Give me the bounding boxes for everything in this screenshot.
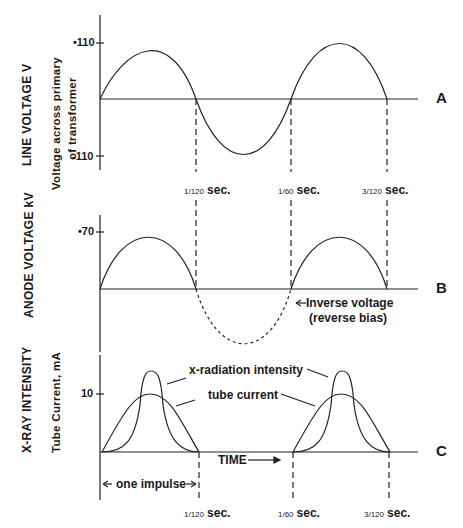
panel-b-axis-title: ANODE VOLTAGE kV — [22, 192, 36, 318]
panel-b-inverse-voltage — [196, 289, 291, 344]
time-mark-1-120: 1/120sec. — [184, 183, 230, 197]
inverse-voltage-label: Inverse voltage — [306, 296, 393, 310]
time-mark-3-120: 3/120sec. — [362, 183, 408, 197]
panel-c-tube-current-1 — [102, 394, 199, 452]
panel-a-label: A — [436, 89, 447, 106]
time-mark-c-1-60: 1/60sec. — [278, 506, 320, 520]
panel-c-label: C — [436, 442, 447, 459]
panel-b-tick-top: •70 — [78, 225, 94, 237]
panel-a-axis-subtitle-2: of transformer — [66, 77, 78, 160]
panel-a-tick-top: •110 — [73, 36, 95, 48]
panel-a-tick-bottom: -110 — [72, 150, 93, 162]
panel-b-anode-pulse-1 — [100, 237, 196, 289]
panel-b-label: B — [436, 279, 447, 296]
panel-c-xray-1 — [102, 371, 199, 452]
time-label: TIME — [218, 453, 247, 467]
panel-b-anode-pulse-2 — [291, 237, 387, 289]
xray-intensity-label: x-radiation intensity — [189, 363, 303, 377]
panel-a-axis-title: LINE VOLTAGE V — [20, 64, 34, 166]
tube-current-label: tube current — [208, 388, 278, 402]
time-mark-c-3-120: 3/120sec. — [364, 506, 410, 520]
one-impulse-label: one impulse — [116, 477, 186, 491]
panel-c-tube-current-2 — [293, 394, 390, 452]
time-mark-1-60: 1/60sec. — [278, 183, 320, 197]
panel-c-xray-2 — [293, 371, 390, 452]
panel-c-axis-title: X-RAY INTENSITY — [20, 346, 34, 453]
time-mark-c-1-120: 1/120sec. — [184, 506, 230, 520]
panel-a-axis-subtitle-1: Voltage across primary — [50, 57, 62, 190]
panel-c-axis-subtitle: Tube Current, mA — [50, 352, 62, 453]
reverse-bias-label: (reverse bias) — [309, 311, 387, 325]
panel-c-tick: 10 — [81, 387, 93, 399]
